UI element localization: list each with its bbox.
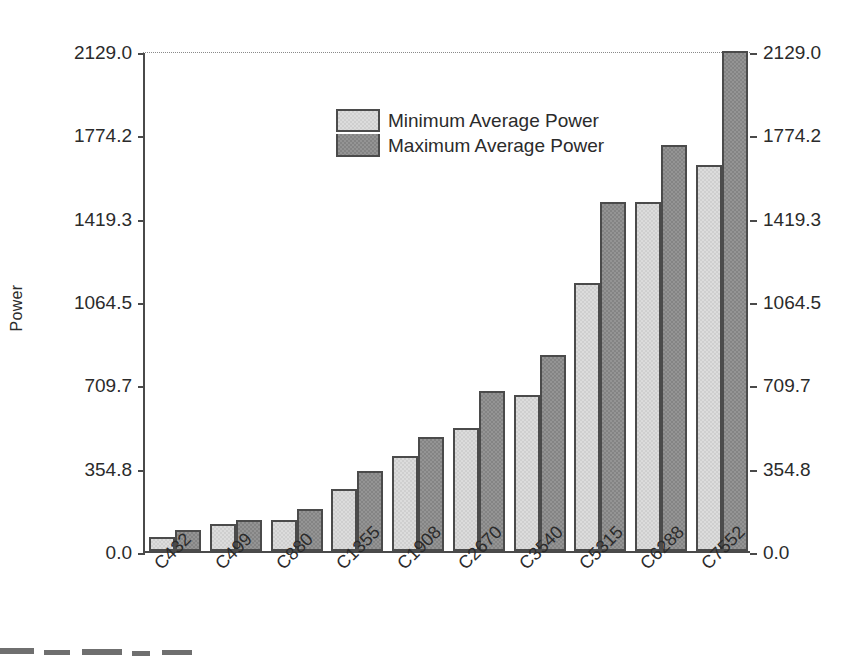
legend-swatch-maximum-icon [336, 134, 380, 157]
y-tick-mark-left [138, 303, 145, 305]
scan-artifact-5 [162, 650, 192, 655]
scan-artifact-3 [82, 649, 122, 655]
scan-artifact-2 [44, 650, 70, 655]
y-tick-label-right: 0.0 [763, 543, 789, 562]
y-tick-mark-right [750, 136, 757, 138]
y-tick-label-left: 709.7 [84, 376, 132, 395]
legend-item-maximum: Maximum Average Power [336, 133, 604, 158]
scan-artifact-4 [132, 651, 150, 656]
legend-label-minimum: Minimum Average Power [388, 110, 599, 132]
bar-maximum-average-power[interactable] [661, 145, 687, 551]
bar-group [271, 53, 323, 551]
bar-group [210, 53, 262, 551]
y-tick-label-right: 1419.3 [763, 210, 821, 229]
y-tick-label-left: 1064.5 [74, 293, 132, 312]
y-tick-mark-right [750, 386, 757, 388]
y-tick-mark-left [138, 53, 145, 55]
bar-minimum-average-power[interactable] [574, 283, 600, 551]
y-tick-mark-left [138, 470, 145, 472]
bar-group [696, 53, 748, 551]
y-tick-mark-right [750, 553, 757, 555]
bar-group [149, 53, 201, 551]
bar-minimum-average-power[interactable] [635, 202, 661, 551]
y-axis-title: Power [8, 248, 26, 368]
bar-group [635, 53, 687, 551]
y-tick-mark-left [138, 386, 145, 388]
y-tick-label-right: 709.7 [763, 376, 811, 395]
bar-minimum-average-power[interactable] [696, 165, 722, 551]
y-tick-label-left: 1774.2 [74, 126, 132, 145]
y-tick-mark-right [750, 303, 757, 305]
y-tick-mark-right [750, 470, 757, 472]
scan-artifact-1 [0, 648, 34, 654]
legend-label-maximum: Maximum Average Power [388, 135, 604, 157]
y-tick-mark-left [138, 220, 145, 222]
bar-minimum-average-power[interactable] [514, 395, 540, 551]
y-tick-mark-right [750, 53, 757, 55]
y-tick-label-right: 1064.5 [763, 293, 821, 312]
y-tick-label-left: 1419.3 [74, 210, 132, 229]
y-tick-mark-left [138, 136, 145, 138]
chart-legend: Minimum Average Power Maximum Average Po… [336, 108, 604, 158]
y-tick-label-left: 354.8 [84, 460, 132, 479]
legend-swatch-minimum-icon [336, 109, 380, 132]
bar-chart-figure: Power 0.00.0354.8354.8709.7709.71064.510… [0, 0, 858, 661]
y-tick-label-right: 354.8 [763, 460, 811, 479]
y-tick-label-right: 1774.2 [763, 126, 821, 145]
legend-item-minimum: Minimum Average Power [336, 108, 604, 133]
y-tick-label-left: 2129.0 [74, 43, 132, 62]
y-tick-label-right: 2129.0 [763, 43, 821, 62]
bar-maximum-average-power[interactable] [722, 51, 748, 551]
bar-maximum-average-power[interactable] [600, 202, 626, 551]
y-tick-mark-right [750, 220, 757, 222]
bar-minimum-average-power[interactable] [453, 428, 479, 551]
y-tick-label-left: 0.0 [106, 543, 132, 562]
y-tick-mark-left [138, 553, 145, 555]
